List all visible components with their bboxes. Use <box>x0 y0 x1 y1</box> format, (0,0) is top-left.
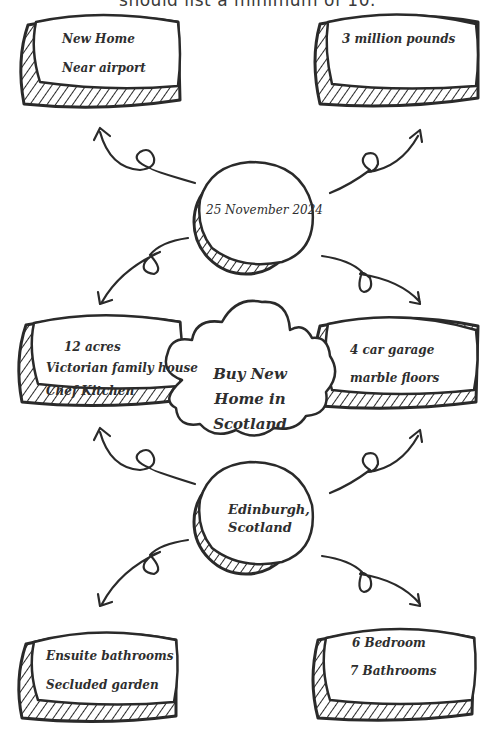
box-top-left-line-2: Near airport <box>62 61 146 75</box>
hub-location-line-1: Edinburgh, <box>228 502 310 517</box>
box-bottom-left-line-2: Secluded garden <box>46 678 159 692</box>
box-mid-left-line-3: Chef Kitchen <box>46 384 134 398</box>
center-title-line-3: Scotland <box>210 412 290 437</box>
box-mid-left-line-1: 12 acres <box>64 340 121 354</box>
center-title-line-2: Home in <box>210 387 290 412</box>
hub-location-shape <box>194 462 313 574</box>
hub-date-shape <box>194 162 313 274</box>
hub-location-line-2: Scotland <box>228 520 292 535</box>
box-top-right-line-1: 3 million pounds <box>342 32 455 46</box>
box-top-right-shape <box>315 14 478 106</box>
box-bottom-left-shape <box>19 632 178 721</box>
center-title-line-1: Buy New <box>210 362 290 387</box>
box-mid-right-line-1: 4 car garage <box>350 343 434 357</box>
header-partial-text: should list a minimum of 10. <box>0 0 495 10</box>
box-bottom-right-line-1: 6 Bedroom <box>352 636 426 650</box>
box-mid-left-line-2: Victorian family house <box>46 361 198 375</box>
box-bottom-right-line-2: 7 Bathrooms <box>350 664 437 678</box>
mind-map-canvas: should list a minimum of 10. New Home Ne… <box>0 0 495 737</box>
box-top-left-line-1: New Home <box>62 32 135 46</box>
box-bottom-left-line-1: Ensuite bathrooms <box>46 649 173 663</box>
box-mid-right-line-2: marble floors <box>350 371 439 385</box>
box-mid-right-shape <box>315 317 478 408</box>
hub-date-label: 25 November 2024 <box>206 203 323 217</box>
